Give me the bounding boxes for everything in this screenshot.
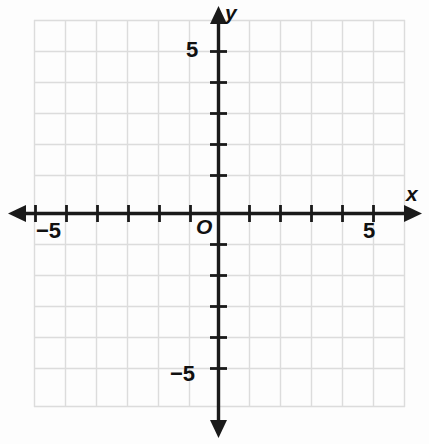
x-axis-right-arrowhead bbox=[404, 205, 422, 222]
y-tick-label-negative-5: −5 bbox=[170, 363, 195, 385]
coordinate-grid-figure: x y O −5 5 5 −5 bbox=[0, 0, 429, 444]
y-tick-label-positive-5: 5 bbox=[186, 39, 198, 61]
x-tick-label-positive-5: 5 bbox=[363, 220, 375, 242]
y-axis bbox=[210, 6, 227, 438]
origin-label: O bbox=[196, 216, 212, 237]
x-axis bbox=[8, 205, 422, 222]
x-tick-label-negative-5: −5 bbox=[36, 220, 61, 242]
y-axis-label: y bbox=[225, 2, 237, 23]
x-axis-left-arrowhead bbox=[8, 205, 26, 222]
y-axis-bottom-arrowhead bbox=[210, 420, 227, 438]
x-axis-label: x bbox=[406, 183, 418, 204]
